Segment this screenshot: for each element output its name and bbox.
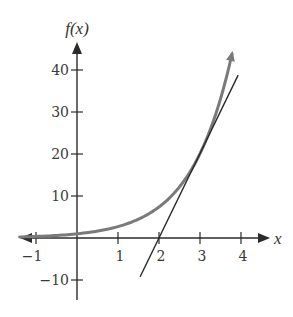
y-axis-title: f(x): [65, 19, 89, 38]
y-tick-label: 10: [51, 188, 69, 204]
y-tick-label: 20: [51, 146, 69, 162]
y-axis-arrow-icon: [72, 42, 82, 54]
x-tick-label: 3: [198, 248, 207, 264]
x-axis-arrow-icon: [258, 233, 270, 243]
axes: [20, 42, 270, 300]
x-axis-title: x: [273, 229, 282, 248]
tangent-line: [140, 75, 238, 277]
series-group: [20, 51, 239, 277]
x-tick-label: −1: [22, 248, 43, 264]
curve-arrow-icon: [226, 51, 235, 62]
x-tick-label: 4: [239, 248, 248, 264]
chart: −11234−1010203040xf(x): [0, 0, 293, 317]
y-tick-label: 40: [51, 62, 69, 78]
x-tick-label: 1: [116, 248, 125, 264]
labels: −11234−1010203040xf(x): [22, 19, 282, 288]
y-tick-label: −10: [39, 272, 69, 288]
x-tick-label: 2: [157, 248, 166, 264]
y-tick-label: 30: [51, 104, 69, 120]
